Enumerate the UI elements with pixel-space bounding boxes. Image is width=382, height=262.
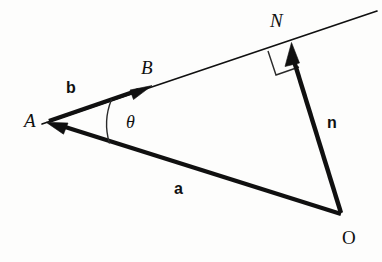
vector-a bbox=[46, 122, 341, 214]
point-label-O: O bbox=[342, 228, 356, 247]
angle-label-theta: θ bbox=[126, 113, 135, 131]
angle-arc-theta bbox=[107, 100, 112, 144]
vector-label-b: b bbox=[66, 80, 76, 96]
vector-projection-diagram: A B N O b a n θ bbox=[0, 0, 382, 262]
point-label-A: A bbox=[24, 111, 36, 130]
point-label-B: B bbox=[141, 58, 153, 77]
point-label-N: N bbox=[270, 11, 283, 30]
vector-label-n: n bbox=[327, 115, 337, 131]
vector-label-a: a bbox=[174, 181, 183, 197]
vector-b bbox=[49, 86, 152, 121]
diagram-canvas bbox=[0, 0, 382, 262]
